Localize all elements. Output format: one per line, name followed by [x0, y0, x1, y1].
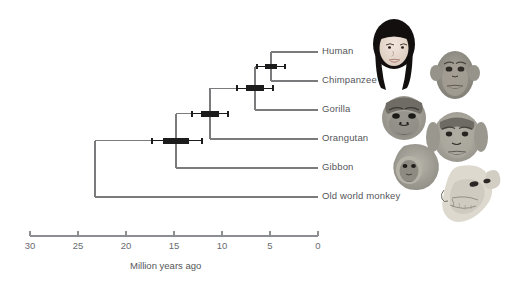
branches — [95, 52, 318, 197]
tip-label-orangutan: Orangutan — [322, 132, 368, 143]
divergence-error-bars — [152, 64, 285, 144]
axis-tick-label-25: 25 — [66, 240, 90, 251]
axis-tick-label-10: 10 — [210, 240, 234, 251]
tip-label-human: Human — [322, 45, 353, 56]
phylogenetic-tree-figure: Human Chimpanzee Gorilla Orangutan Gibbo… — [0, 0, 506, 283]
time-axis — [30, 231, 318, 236]
axis-tick-label-30: 30 — [18, 240, 42, 251]
tip-label-gorilla: Gorilla — [322, 103, 351, 114]
error-bar-orangutan — [192, 111, 228, 117]
error-bar-gorilla — [237, 85, 273, 91]
tip-label-chimpanzee: Chimpanzee — [322, 74, 377, 85]
tip-label-gibbon: Gibbon — [322, 161, 354, 172]
axis-tick-label-5: 5 — [258, 240, 282, 251]
axis-tick-label-0: 0 — [306, 240, 330, 251]
axis-title: Million years ago — [130, 260, 201, 271]
axis-tick-label-15: 15 — [162, 240, 186, 251]
axis-tick-label-20: 20 — [114, 240, 138, 251]
error-bar-human-chimp — [257, 64, 285, 70]
tip-label-old-world-monkey: Old world monkey — [322, 190, 400, 201]
error-bar-gibbon — [152, 138, 202, 144]
